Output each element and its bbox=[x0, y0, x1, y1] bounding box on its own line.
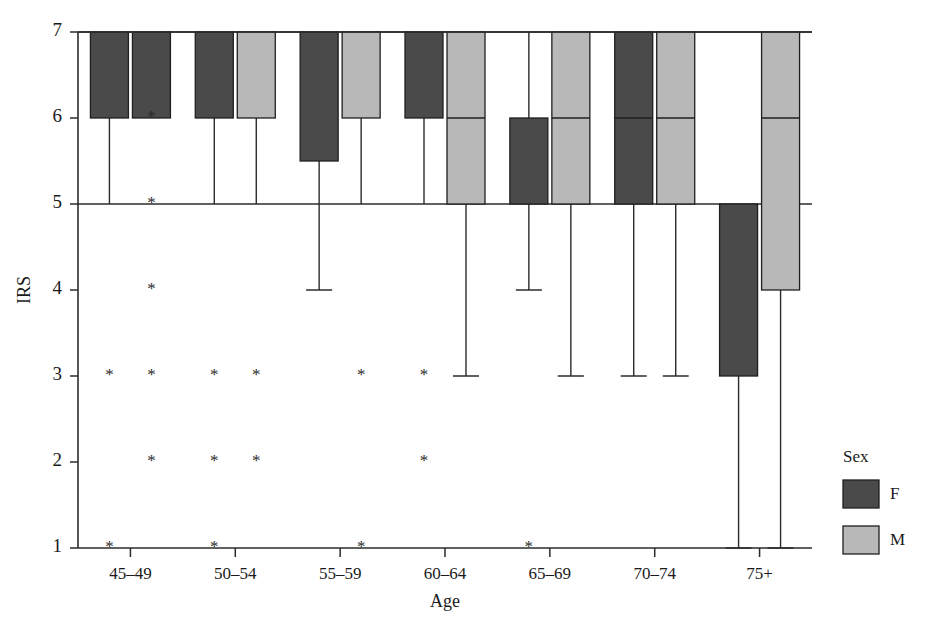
box-body bbox=[720, 204, 758, 376]
outlier-asterisk: * bbox=[420, 365, 429, 384]
x-tick-label-6: 75+ bbox=[746, 564, 773, 583]
boxplot-svg: ***************** 1234567 45–4950–5455–5… bbox=[0, 0, 932, 633]
y-tick-label-3: 3 bbox=[53, 363, 63, 384]
legend-swatch-F bbox=[843, 480, 879, 508]
outlier-asterisk: * bbox=[105, 537, 114, 556]
outlier-asterisk: * bbox=[210, 365, 219, 384]
y-axis-title: IRS bbox=[14, 276, 34, 304]
outlier-asterisk: * bbox=[210, 451, 219, 470]
outlier-asterisk: * bbox=[147, 107, 156, 126]
x-axis-title: Age bbox=[430, 591, 460, 611]
y-tick-label-2: 2 bbox=[53, 449, 63, 470]
x-tick-label-5: 70–74 bbox=[633, 564, 676, 583]
x-tick-label-1: 50–54 bbox=[214, 564, 257, 583]
outlier-asterisk: * bbox=[147, 365, 156, 384]
y-tick-label-5: 5 bbox=[53, 191, 63, 212]
outlier-asterisk: * bbox=[105, 365, 114, 384]
outlier-asterisk: * bbox=[525, 537, 534, 556]
y-tick-label-7: 7 bbox=[53, 19, 63, 40]
outlier-asterisk: * bbox=[147, 279, 156, 298]
legend-swatch-M bbox=[843, 526, 879, 554]
box-body bbox=[237, 32, 275, 118]
box-body bbox=[300, 32, 338, 161]
x-tick-label-2: 55–59 bbox=[319, 564, 362, 583]
outlier-asterisk: * bbox=[147, 193, 156, 212]
legend-label-M: M bbox=[890, 530, 905, 549]
y-tick-label-6: 6 bbox=[53, 105, 63, 126]
outlier-asterisk: * bbox=[357, 365, 366, 384]
box-body bbox=[405, 32, 443, 118]
outlier-asterisk: * bbox=[147, 451, 156, 470]
y-tick-label-1: 1 bbox=[53, 535, 63, 556]
legend-label-F: F bbox=[890, 484, 899, 503]
outlier-asterisk: * bbox=[420, 451, 429, 470]
box-body bbox=[132, 32, 170, 118]
legend-title: Sex bbox=[843, 447, 869, 466]
box-body bbox=[195, 32, 233, 118]
y-tick-label-4: 4 bbox=[53, 277, 63, 298]
x-tick-label-3: 60–64 bbox=[424, 564, 467, 583]
outlier-asterisk: * bbox=[210, 537, 219, 556]
outlier-asterisk: * bbox=[252, 451, 261, 470]
x-tick-label-4: 65–69 bbox=[529, 564, 572, 583]
outlier-asterisk: * bbox=[357, 537, 366, 556]
outlier-asterisk: * bbox=[252, 365, 261, 384]
x-tick-label-0: 45–49 bbox=[109, 564, 152, 583]
boxplot-figure: ***************** 1234567 45–4950–5455–5… bbox=[0, 0, 932, 633]
box-body bbox=[342, 32, 380, 118]
box-body bbox=[762, 32, 800, 290]
box-body bbox=[510, 118, 548, 204]
box-M-4549 bbox=[132, 32, 170, 118]
box-body bbox=[90, 32, 128, 118]
